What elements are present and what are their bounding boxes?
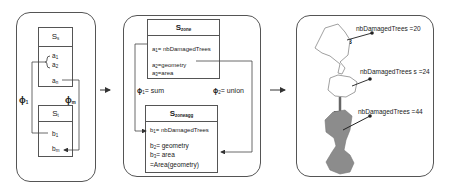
diagram-connectors (0, 0, 456, 193)
zone3-shape (315, 24, 350, 74)
phim-connector (62, 80, 79, 150)
zone3-leader (347, 33, 372, 40)
merged-zone-shape (325, 110, 354, 174)
brace-a1-a2 (45, 56, 50, 68)
zone3-dot (370, 31, 374, 35)
phi2-union-connector (196, 61, 252, 152)
phi1-sum-connector (135, 44, 147, 131)
zone4-dot (368, 77, 372, 81)
merged-dot (368, 114, 372, 118)
phi1-connector (32, 62, 48, 133)
